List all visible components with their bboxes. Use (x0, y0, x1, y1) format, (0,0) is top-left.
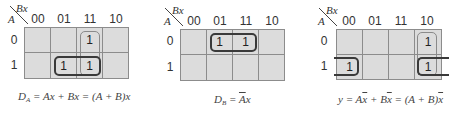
eq-equals: = (226, 93, 239, 105)
col-label: 00 (181, 14, 207, 28)
eq-bar-term: A (239, 93, 246, 105)
eq-rest: x (246, 93, 251, 105)
kmap-y: Bx A 00 01 11 10 0 1 1 1 1 y = Ax + Bx =… (298, 0, 448, 114)
col-label: 01 (51, 12, 77, 26)
kmap-grid: 1 1 (180, 29, 285, 81)
cell-1-01 (363, 55, 389, 79)
equation-da: DA = Ax + Bx = (A + B)x (18, 90, 130, 104)
row-variable-label: A (164, 15, 171, 27)
row-label: 1 (164, 60, 176, 74)
row-label: 0 (164, 34, 176, 48)
col-label: 01 (207, 14, 233, 28)
cell-1-10 (103, 53, 128, 78)
row-variable-label: A (318, 15, 325, 27)
group-loop-wrap-left (334, 57, 359, 76)
cell-0-10 (259, 30, 284, 55)
cell-1-11 (389, 55, 415, 79)
cell-1-01 (207, 55, 233, 80)
row-label: 0 (318, 34, 330, 48)
row-label: 0 (8, 33, 20, 47)
col-label: 11 (77, 12, 103, 26)
cell-0-10 (103, 28, 128, 53)
equation-db: DB = Ax (214, 93, 251, 107)
eq-part1: y = A (338, 93, 362, 105)
col-label: 10 (259, 14, 285, 28)
kmap-da: Bx A 00 01 11 10 0 1 1 1 1 DA = Ax + Bx … (0, 0, 150, 114)
eq-lhs: D (18, 90, 26, 102)
eq-part3: = (A + B) (392, 93, 438, 105)
cell-1-00 (181, 55, 207, 80)
col-label: 10 (103, 12, 129, 26)
eq-lhs: D (214, 93, 222, 105)
cell-1-10 (259, 55, 284, 80)
group-loop-wrap-right (417, 57, 449, 76)
col-label: 00 (336, 14, 362, 28)
col-label: 11 (388, 14, 414, 28)
col-label: 01 (362, 14, 388, 28)
group-loop-horizontal (54, 56, 101, 76)
col-label: 11 (233, 14, 259, 28)
cell-1-00 (25, 53, 51, 78)
cell-0-11 (389, 30, 415, 55)
eq-xbar-3: x (438, 93, 443, 105)
cell-0-01 (363, 30, 389, 55)
kmap-grid: 1 1 1 (24, 27, 129, 79)
cell-0-01 (51, 28, 77, 53)
group-loop-horizontal (210, 33, 257, 52)
cell-1-11 (233, 55, 259, 80)
eq-rhs: = Ax + Bx = (A + B)x (30, 90, 130, 102)
row-label: 1 (8, 58, 20, 72)
col-label: 00 (25, 12, 51, 26)
row-variable-label: A (8, 13, 15, 25)
cell-0-00 (337, 30, 363, 55)
row-label: 1 (318, 59, 330, 73)
kmap-db: Bx A 00 01 11 10 0 1 1 1 DB = Ax (150, 0, 300, 114)
equation-y: y = Ax + Bx = (A + B)x (338, 93, 443, 105)
col-label: 10 (414, 14, 440, 28)
eq-part2: + B (367, 93, 387, 105)
cell-0-00 (181, 30, 207, 55)
cell-0-00 (25, 28, 51, 53)
